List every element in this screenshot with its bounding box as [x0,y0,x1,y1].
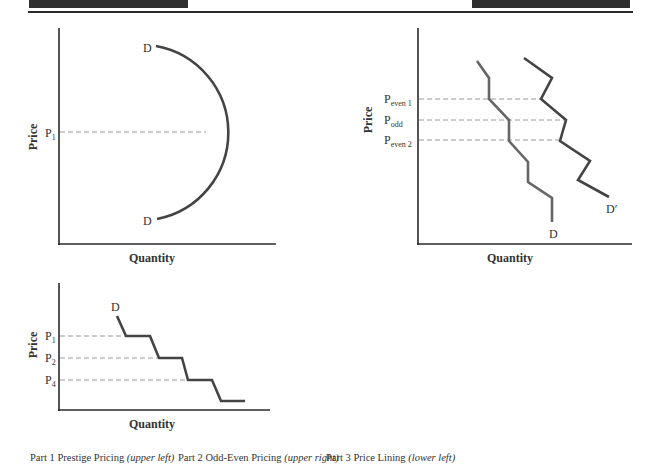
x-axis-label: Quantity [129,417,175,431]
caption-part1-position: (upper left) [127,452,175,463]
demand-curve-d-prime [524,58,609,197]
caption-part3-label: Part 3 Price Lining [326,452,406,463]
chart-prestige-pricing: D D P1 Price Quantity [26,28,276,265]
x-axis-label: Quantity [487,251,533,265]
chart-price-lining: D P1 P2 P4 Price Quantity [26,283,270,431]
curve-label-d: D [549,227,558,241]
price-label-even2: Peven 2 [384,133,412,149]
caption-part1: Part 1 Prestige Pricing (upper left) [30,452,174,463]
price-label-even1: Peven 1 [384,92,412,108]
caption-part2: Part 2 Odd-Even Pricing (upper right) [178,452,339,463]
x-axis-label: Quantity [129,251,175,265]
pricing-figures: D D P1 Price Quantity D D′ Peven 1 Podd … [0,0,651,467]
curve-label-bottom: D [143,214,152,228]
caption-part1-label: Part 1 Prestige Pricing [30,452,124,463]
caption-part3-position: (lower left) [408,452,455,463]
price-label-p1: P1 [45,126,56,142]
curve-label-d-prime: D′ [606,202,618,216]
chart-odd-even-pricing: D D′ Peven 1 Podd Peven 2 Price Quantity [361,28,632,265]
price-label-odd: Podd [384,113,403,129]
y-axis-label: Price [26,123,40,150]
caption-part2-label: Part 2 Odd-Even Pricing [178,452,282,463]
price-label-p4: P4 [45,373,56,389]
y-axis-label: Price [26,331,40,358]
caption-part3: Part 3 Price Lining (lower left) [326,452,455,463]
price-label-p2: P2 [45,351,56,367]
curve-label-top: D [143,41,152,55]
price-label-p1: P1 [45,329,56,345]
curve-label-d: D [111,300,120,314]
y-axis-label: Price [361,106,375,133]
demand-curve-d [477,61,552,222]
